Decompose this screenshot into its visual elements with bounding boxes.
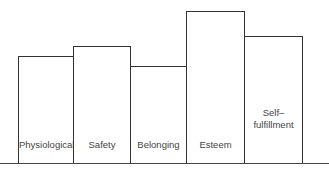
bar-label-fulfillment: fulfillment [245,119,302,131]
bar-label-self: Self– [245,107,302,119]
baseline [0,163,329,164]
bar-label-belonging: Belonging [131,139,186,151]
bar-safety: Safety [73,46,131,164]
bar-label-esteem: Esteem [187,139,244,151]
bar-label-physiological: Physiological [19,139,73,151]
bar-physiological: Physiological [18,56,74,164]
bar-esteem: Esteem [186,11,245,164]
bar-self-fulfillment: Self– fulfillment [244,36,303,164]
bar-belonging: Belonging [130,66,187,164]
bar-label-safety: Safety [74,139,130,151]
